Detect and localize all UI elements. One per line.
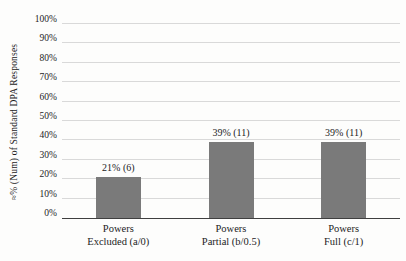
category-label-line1: Powers — [288, 223, 400, 236]
category-label-line2: Full (c/1) — [288, 236, 400, 249]
y-tick-label-0%: 0% — [0, 208, 57, 218]
y-axis-tick-labels: 0%10%20%30%40%50%60%70%80%90%100% — [0, 24, 57, 218]
y-tick-label-90%: 90% — [0, 33, 57, 43]
gridline-70% — [62, 81, 400, 82]
bar-chart: ≈% (Num) of Standard DPA Responses 0%10%… — [0, 0, 406, 261]
gridline-50% — [62, 120, 400, 121]
category-label-line2: Excluded (a/0) — [62, 236, 174, 249]
bar-1 — [96, 177, 141, 218]
gridline-60% — [62, 101, 400, 102]
y-tick-label-60%: 60% — [0, 92, 57, 102]
y-tick-label-70%: 70% — [0, 72, 57, 82]
bar-value-label-1: 21% (6) — [73, 162, 163, 173]
gridline-40% — [62, 139, 400, 140]
category-label-3: PowersFull (c/1) — [288, 223, 400, 248]
bar-2 — [209, 142, 254, 218]
category-label-line2: Partial (b/0.5) — [175, 236, 287, 249]
bar-value-label-2: 39% (11) — [186, 127, 276, 138]
category-label-line1: Powers — [62, 223, 174, 236]
category-label-2: PowersPartial (b/0.5) — [175, 223, 287, 248]
y-tick-label-30%: 30% — [0, 150, 57, 160]
y-tick-label-100%: 100% — [0, 14, 57, 24]
y-tick-label-40%: 40% — [0, 130, 57, 140]
bar-value-label-3: 39% (11) — [299, 127, 389, 138]
x-axis-category-labels: PowersExcluded (a/0)PowersPartial (b/0.5… — [62, 223, 400, 253]
category-label-1: PowersExcluded (a/0) — [62, 223, 174, 248]
gridline-80% — [62, 62, 400, 63]
bar-3 — [321, 142, 366, 218]
gridline-100% — [62, 23, 400, 24]
y-tick-label-50%: 50% — [0, 111, 57, 121]
plot-area: 21% (6)39% (11)39% (11) — [62, 24, 400, 218]
y-tick-label-80%: 80% — [0, 53, 57, 63]
y-tick-label-20%: 20% — [0, 169, 57, 179]
y-tick-label-10%: 10% — [0, 189, 57, 199]
category-label-line1: Powers — [175, 223, 287, 236]
gridline-90% — [62, 42, 400, 43]
